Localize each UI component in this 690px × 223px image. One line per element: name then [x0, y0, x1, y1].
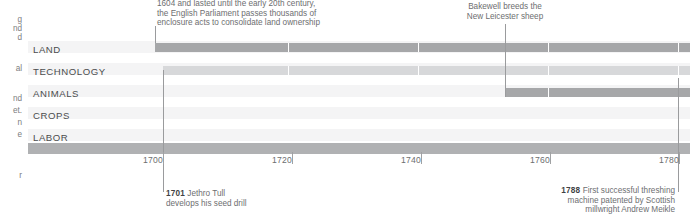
annotation-enclosure: 1604 and lasted until the early 20th cen… [157, 0, 320, 28]
annotation-seed-drill-line1: 1701 Jethro Tull [166, 189, 247, 199]
axis-label-1720: 1720 [272, 155, 292, 165]
bar-segment-gap [678, 66, 679, 75]
row-stripe [28, 129, 690, 141]
axis-label-1760: 1760 [530, 155, 550, 165]
bar-segment-gap [288, 66, 289, 75]
axis-band [28, 143, 690, 154]
axis-tick-mark [163, 152, 164, 164]
annotation-seed-drill: 1701 Jethro Tull develops his seed drill [166, 189, 247, 208]
row-label-labor: LABOR [33, 132, 68, 143]
gutter-fragment: nd [13, 95, 22, 103]
bar-segment-gap [548, 88, 549, 97]
axis-label-1700: 1700 [143, 155, 163, 165]
row-label-technology: TECHNOLOGY [33, 66, 106, 77]
leader-line-enclosure [155, 26, 156, 43]
bar-segment-gap [678, 43, 679, 52]
axis-tick-mark [679, 152, 680, 164]
annotation-bakewell-line1: Bakewell breeds the [415, 2, 595, 12]
row-stripe [28, 107, 690, 119]
row-label-crops: CROPS [33, 110, 70, 121]
bar-segment-gap [548, 66, 549, 75]
bar-segment-gap [418, 43, 419, 52]
gutter-fragment: d [17, 34, 22, 42]
annotation-enclosure-line1: 1604 and lasted until the early 20th cen… [157, 0, 320, 9]
annotation-threshing-text1: First successful threshing [583, 186, 675, 195]
bar-animals[interactable] [505, 88, 690, 97]
annotation-seed-drill-line2: develops his seed drill [166, 199, 247, 209]
leader-line-seed-drill [163, 70, 164, 192]
gutter-fragment: al [16, 65, 22, 73]
bar-segment-gap [548, 43, 549, 52]
annotation-seed-drill-year: 1701 [166, 189, 185, 198]
axis-label-1780: 1780 [659, 155, 679, 165]
annotation-threshing: 1788 First successful threshing machine … [490, 186, 675, 215]
leader-line-bakewell [505, 24, 506, 97]
bar-technology[interactable] [163, 66, 690, 75]
axis-tick-mark [421, 152, 422, 164]
annotation-threshing-line2: machine patented by Scottish [490, 196, 675, 206]
bar-segment-gap [418, 66, 419, 75]
annotation-threshing-line1: 1788 First successful threshing [490, 186, 675, 196]
axis-tick-mark [550, 152, 551, 164]
axis-label-1740: 1740 [401, 155, 421, 165]
annotation-bakewell: Bakewell breeds the New Leicester sheep [415, 2, 595, 21]
annotation-threshing-year: 1788 [561, 186, 580, 195]
gutter-fragment: r [19, 172, 22, 180]
bar-land[interactable] [155, 43, 690, 52]
gutter-fragment: e [17, 131, 22, 139]
annotation-threshing-line3: millwright Andrew Meikle [490, 205, 675, 215]
row-label-animals: ANIMALS [33, 88, 79, 99]
gutter-fragment: et. [13, 107, 22, 115]
gutter-fragment: n [17, 119, 22, 127]
bar-segment-gap [288, 43, 289, 52]
annotation-seed-drill-text1: Jethro Tull [187, 189, 225, 198]
leader-line-threshing [678, 78, 679, 192]
annotation-enclosure-line2: the English Parliament passes thousands … [157, 9, 320, 19]
page-gutter-text: g nd d al nd et. n e r [0, 0, 24, 223]
annotation-enclosure-line3: enclosure acts to consolidate land owner… [157, 18, 320, 28]
row-label-land: LAND [33, 44, 61, 55]
timeline-chart: g nd d al nd et. n e r LAND TECHNOLOGY A… [0, 0, 690, 223]
annotation-bakewell-line2: New Leicester sheep [415, 12, 595, 22]
axis-tick-mark [292, 152, 293, 164]
